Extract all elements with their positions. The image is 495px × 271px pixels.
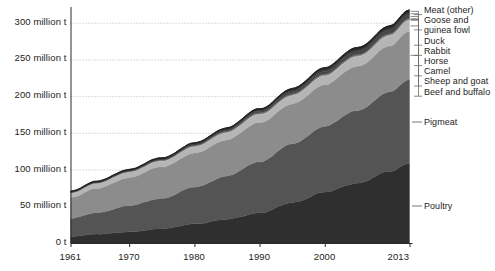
legend-item-horse: Horse: [424, 56, 448, 66]
meat-production-stacked-area-chart: 0 t50 million t100 million t150 million …: [0, 0, 495, 271]
x-tick-label: 1961: [60, 252, 82, 262]
axis-ticks: [71, 244, 410, 247]
legend-item-duck: Duck: [424, 36, 445, 46]
y-tick-label: 50 million t: [20, 200, 67, 210]
y-tick-label: 150 million t: [15, 127, 67, 137]
legend-item-sheep-and-goat: Sheep and goat: [424, 76, 488, 86]
chart-canvas: [0, 0, 495, 271]
legend-leader-lines: [411, 11, 423, 206]
y-tick-label: 200 million t: [15, 90, 67, 100]
legend-item-camel: Camel: [424, 66, 450, 76]
x-tick-label: 2013: [388, 252, 410, 262]
legend-item-meat-other-: Meat (other): [424, 5, 474, 15]
legend-item-label-line2: guinea fowl: [424, 25, 470, 35]
legend-item-rabbit: Rabbit: [424, 46, 450, 56]
legend-item-goose-and: Goose andguinea fowl: [424, 15, 470, 35]
y-tick-label: 100 million t: [15, 164, 67, 174]
x-tick-label: 1980: [183, 252, 205, 262]
y-tick-label: 0 t: [56, 237, 67, 247]
x-tick-label: 1990: [249, 252, 271, 262]
x-tick-label: 1970: [118, 252, 140, 262]
inline-label-poultry: Poultry: [424, 201, 452, 211]
inline-label-pigmeat: Pigmeat: [424, 117, 457, 127]
stacked-area-series: [71, 10, 410, 243]
legend-item-beef-and-buffalo: Beef and buffalo: [424, 87, 490, 97]
y-tick-label: 250 million t: [15, 53, 67, 63]
x-tick-label: 2000: [314, 252, 336, 262]
y-tick-label: 300 million t: [15, 17, 67, 27]
